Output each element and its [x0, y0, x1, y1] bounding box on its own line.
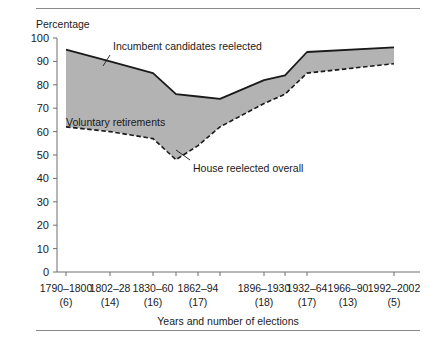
voluntary-retirements-annotation: Voluntary retirements: [66, 116, 165, 128]
y-tick-label: 30: [37, 196, 49, 208]
y-axis-ticks: 0102030405060708090100: [31, 32, 57, 278]
y-tick-label: 90: [37, 55, 49, 67]
y-tick-label: 0: [43, 266, 49, 278]
y-tick-label: 60: [37, 126, 49, 138]
x-category-count-label: (17): [298, 296, 317, 308]
x-axis-title: Years and number of elections: [157, 315, 298, 327]
y-tick-label: 100: [31, 32, 49, 44]
x-category-count-label: (16): [144, 296, 163, 308]
x-axis-category-labels: 1790–1800(6)1802–28(14)1830–60(16)1862–9…: [40, 282, 421, 308]
x-axis-ticks: [66, 272, 394, 276]
x-category-range-label: 1896–1930: [238, 282, 291, 294]
plot-area: [66, 47, 394, 159]
y-tick-label: 10: [37, 243, 49, 255]
x-category-count-label: (5): [388, 296, 401, 308]
x-category-range-label: 1830–60: [133, 282, 174, 294]
voluntary-retirements-band: [66, 47, 394, 159]
x-category-count-label: (13): [339, 296, 358, 308]
figure-container: Percentage 0102030405060708090100 Incumb…: [0, 0, 436, 350]
area-chart: Percentage 0102030405060708090100 Incumb…: [0, 0, 436, 350]
x-category-count-label: (14): [101, 296, 120, 308]
y-tick-label: 40: [37, 172, 49, 184]
y-tick-label: 50: [37, 149, 49, 161]
x-category-range-label: 1932–64: [287, 282, 328, 294]
incumbent-reelected-annotation: Incumbent candidates reelected: [113, 40, 262, 52]
y-tick-label: 80: [37, 79, 49, 91]
x-category-range-label: 1790–1800: [40, 282, 93, 294]
house-reelected-annotation: House reelected overall: [193, 162, 303, 174]
x-category-count-label: (6): [60, 296, 73, 308]
x-category-range-label: 1992–2002: [368, 282, 421, 294]
y-axis-caption: Percentage: [36, 18, 90, 30]
y-tick-label: 20: [37, 219, 49, 231]
x-category-range-label: 1802–28: [90, 282, 131, 294]
x-category-range-label: 1966–90: [328, 282, 369, 294]
x-category-range-label: 1862–94: [178, 282, 219, 294]
x-category-count-label: (17): [189, 296, 208, 308]
x-category-count-label: (18): [255, 296, 274, 308]
y-tick-label: 70: [37, 102, 49, 114]
